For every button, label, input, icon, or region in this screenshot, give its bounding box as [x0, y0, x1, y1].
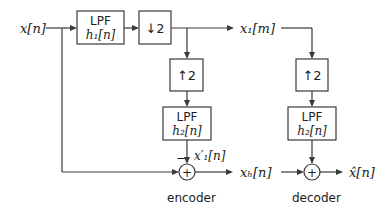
decoder-upsample-label: ↑2	[302, 68, 321, 83]
encoder-lpf-h2-filter: h₂[n]	[172, 124, 202, 138]
arrow-icon	[172, 169, 179, 175]
encoder-decoder-diagram: x[n] LPF h₁[n] ↓2 x₁[m] ↑2 LPF h₂[n] − x…	[0, 0, 389, 213]
minus-sign: −	[176, 151, 186, 165]
arrow-icon	[309, 157, 315, 164]
arrow-icon	[184, 100, 190, 107]
arrow-icon	[132, 25, 139, 31]
lpf-h1-block: LPF h₁[n]	[77, 11, 124, 44]
lpf-h1-filter: h₁[n]	[86, 28, 116, 42]
arrow-icon	[70, 25, 77, 31]
lowband-output-label: x₁[m]	[240, 21, 276, 36]
encoder-lpf-h2-block: LPF h₂[n]	[163, 107, 211, 140]
decoder-lpf-h2-title: LPF	[302, 110, 323, 124]
decoder-lpf-h2-filter: h₂[n]	[297, 124, 327, 138]
arrow-icon	[309, 52, 315, 59]
downsample-label: ↓2	[145, 21, 164, 36]
decoder-upsample-block: ↑2	[296, 59, 328, 91]
encoder-upsample-label: ↑2	[177, 68, 196, 83]
interp-signal-label: x′₁[n]	[194, 149, 226, 163]
arrow-icon	[226, 169, 233, 175]
arrow-icon	[297, 169, 304, 175]
encoder-sum-node: +	[179, 164, 195, 180]
encoder-upsample-block: ↑2	[170, 59, 203, 91]
encoder-caption: encoder	[167, 191, 216, 205]
arrow-icon	[227, 25, 234, 31]
lpf-h1-title: LPF	[90, 14, 111, 28]
decoder-lpf-h2-block: LPF h₂[n]	[288, 107, 336, 140]
arrow-icon	[309, 100, 315, 107]
arrow-icon	[184, 52, 190, 59]
decoder-sum-node: +	[304, 164, 320, 180]
highband-output-label: xₕ[n]	[240, 165, 272, 180]
input-label: x[n]	[20, 21, 47, 36]
output-label: x̂[n]	[349, 165, 376, 180]
encoder-lpf-h2-title: LPF	[177, 110, 198, 124]
arrow-icon	[336, 169, 343, 175]
downsample-block: ↓2	[139, 11, 171, 44]
plus-icon: +	[307, 166, 317, 180]
decoder-caption: decoder	[292, 191, 341, 205]
plus-icon: +	[182, 166, 192, 180]
